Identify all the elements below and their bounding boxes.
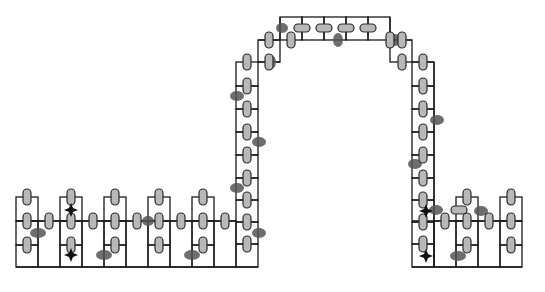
defect-blob: [333, 33, 343, 47]
defect-blob: [429, 205, 443, 215]
qubit-vertical-icon: [463, 237, 471, 253]
qubit-vertical-icon: [507, 237, 515, 253]
qubit-vertical-icon: [419, 101, 427, 117]
qubit-vertical-icon: [23, 237, 31, 253]
qubit-vertical-icon: [111, 213, 119, 229]
qubit-vertical-icon: [199, 189, 207, 205]
qubit-vertical-icon: [398, 54, 406, 70]
qubit-vertical-icon: [419, 147, 427, 163]
lattice-diagram: [0, 0, 545, 292]
qubit-vertical-icon: [133, 213, 141, 229]
qubit-vertical-icon: [243, 78, 251, 94]
qubit-vertical-icon: [155, 213, 163, 229]
qubit-vertical-icon: [419, 124, 427, 140]
star-markers: [64, 203, 433, 263]
qubit-vertical-icon: [386, 32, 394, 48]
qubit-vertical-icon: [485, 213, 493, 229]
qubit-vertical-icon: [111, 189, 119, 205]
qubit-vertical-icon: [287, 32, 295, 48]
defect-blob: [230, 91, 244, 101]
qubit-vertical-icon: [419, 54, 427, 70]
qubit-vertical-icon: [23, 213, 31, 229]
qubit-vertical-icon: [507, 189, 515, 205]
defect-blob: [142, 216, 154, 226]
defect-blob: [450, 251, 466, 261]
defect-blob: [276, 23, 288, 33]
defect-blob: [252, 228, 266, 238]
defect-blob: [252, 137, 266, 147]
qubit-vertical-icon: [67, 189, 75, 205]
four-point-star-icon: [64, 203, 78, 217]
qubit-vertical-icon: [199, 237, 207, 253]
qubit-horizontal-icon: [338, 24, 354, 32]
qubit-horizontal-icon: [360, 24, 376, 32]
qubit-vertical-icon: [111, 237, 119, 253]
qubit-vertical-icon: [155, 189, 163, 205]
qubit-vertical-icon: [221, 213, 229, 229]
qubit-vertical-icon: [441, 213, 449, 229]
qubit-vertical-icon: [45, 213, 53, 229]
qubit-vertical-icon: [463, 189, 471, 205]
qubit-vertical-icon: [398, 32, 406, 48]
qubit-vertical-icon: [177, 213, 185, 229]
defect-blob: [230, 183, 244, 193]
qubit-vertical-icon: [199, 213, 207, 229]
qubit-horizontal-icon: [316, 24, 332, 32]
defect-blob: [30, 228, 46, 238]
defect-blob: [184, 250, 200, 260]
qubit-vertical-icon: [507, 213, 515, 229]
qubit-vertical-icon: [243, 54, 251, 70]
qubit-vertical-icon: [265, 32, 273, 48]
qubit-vertical-icon: [463, 213, 471, 229]
qubit-vertical-icon: [23, 189, 31, 205]
qubit-ellipses: [23, 24, 515, 253]
defect-blob: [96, 250, 112, 260]
qubit-vertical-icon: [243, 214, 251, 230]
qubit-vertical-icon: [243, 170, 251, 186]
defect-blob: [430, 115, 444, 125]
qubit-vertical-icon: [243, 101, 251, 117]
qubit-vertical-icon: [419, 170, 427, 186]
qubit-horizontal-icon: [294, 24, 310, 32]
qubit-vertical-icon: [265, 54, 273, 70]
qubit-vertical-icon: [243, 124, 251, 140]
qubit-vertical-icon: [419, 78, 427, 94]
qubit-vertical-icon: [243, 236, 251, 252]
qubit-vertical-icon: [243, 147, 251, 163]
qubit-horizontal-icon: [451, 206, 467, 214]
four-point-star-icon: [64, 248, 78, 262]
qubit-vertical-icon: [155, 237, 163, 253]
qubit-vertical-icon: [89, 213, 97, 229]
qubit-vertical-icon: [243, 192, 251, 208]
